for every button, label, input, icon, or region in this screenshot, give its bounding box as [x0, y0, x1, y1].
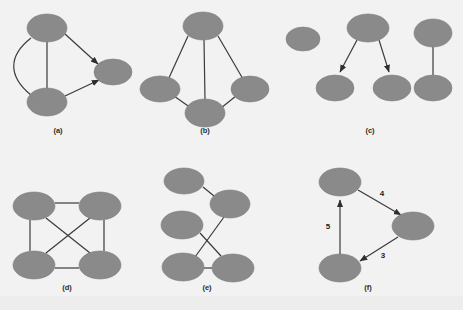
caption-f: (f): [364, 283, 372, 292]
node-b1: [183, 12, 223, 40]
graph-figure: (a) (b): [0, 0, 463, 310]
node-d1: [13, 192, 55, 220]
caption-d: (d): [62, 283, 72, 292]
node-b4: [185, 99, 225, 127]
node-d2: [79, 192, 121, 220]
edge-weight-3: 3: [381, 251, 386, 260]
node-e4: [162, 253, 204, 281]
node-b3: [231, 76, 269, 102]
node-f3: [319, 254, 361, 282]
edge-weight-5: 5: [326, 222, 331, 231]
caption-e: (e): [202, 283, 212, 292]
node-e2: [210, 190, 250, 218]
edge-weight-4: 4: [380, 189, 385, 198]
node-f1: [319, 168, 361, 196]
node-e3: [161, 211, 203, 239]
node-c6: [414, 75, 452, 101]
node-f2: [392, 212, 434, 240]
figure-footer-band: [0, 296, 463, 310]
node-c3-leaf: [316, 75, 354, 101]
figure-canvas: (a) (b): [0, 0, 463, 310]
node-c1-isolated: [286, 27, 320, 51]
node-d4: [79, 251, 121, 279]
node-a2: [27, 88, 67, 116]
node-c2-root: [347, 14, 389, 42]
node-a1: [27, 14, 67, 42]
node-d3: [13, 251, 55, 279]
node-e1: [164, 168, 204, 194]
node-a3: [94, 59, 132, 85]
caption-a: (a): [53, 126, 63, 135]
node-c5: [414, 19, 452, 47]
caption-c: (c): [365, 126, 375, 135]
node-b2: [140, 76, 180, 102]
node-c4-leaf: [373, 75, 411, 101]
caption-b: (b): [200, 126, 210, 135]
node-e5: [212, 254, 254, 282]
